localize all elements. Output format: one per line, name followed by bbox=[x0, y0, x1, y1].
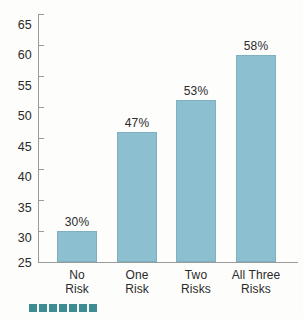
y-tick-label-50: 50 bbox=[6, 110, 32, 123]
y-tick-45 bbox=[39, 138, 44, 139]
decorative-square-strip bbox=[29, 304, 97, 312]
x-category-all-three-risks-line1: All Three bbox=[222, 268, 290, 282]
bar-value-no-risk: 30% bbox=[57, 216, 97, 228]
bar-value-all-three-risks: 58% bbox=[236, 40, 276, 52]
x-category-one-risk: One Risk bbox=[107, 268, 167, 296]
x-category-two-risks-line2: Risks bbox=[166, 282, 226, 296]
y-tick-50 bbox=[39, 107, 44, 108]
decorative-square bbox=[79, 304, 87, 312]
y-tick-60 bbox=[39, 45, 44, 46]
y-tick-label-55: 55 bbox=[6, 80, 32, 93]
y-tick-label-25: 25 bbox=[6, 257, 32, 270]
y-tick-label-40: 40 bbox=[6, 171, 32, 184]
x-category-two-risks-line1: Two bbox=[166, 268, 226, 282]
y-tick-55 bbox=[39, 76, 44, 77]
y-tick-label-60: 60 bbox=[6, 49, 32, 62]
x-category-one-risk-line2: Risk bbox=[107, 282, 167, 296]
decorative-square bbox=[39, 304, 47, 312]
bar-all-three-risks[interactable] bbox=[236, 55, 276, 262]
chart-page: 65 60 55 50 45 40 35 30 25 30% 47% 53% 5… bbox=[0, 0, 303, 319]
decorative-square bbox=[59, 304, 67, 312]
x-axis-line bbox=[38, 262, 298, 263]
decorative-square bbox=[69, 304, 77, 312]
bar-value-two-risks: 53% bbox=[176, 85, 216, 97]
y-tick-35 bbox=[39, 200, 44, 201]
x-category-no-risk-line1: No bbox=[47, 268, 107, 282]
y-tick-label-35: 35 bbox=[6, 202, 32, 215]
y-tick-40 bbox=[39, 169, 44, 170]
x-category-one-risk-line1: One bbox=[107, 268, 167, 282]
x-category-all-three-risks: All Three Risks bbox=[222, 268, 290, 296]
bar-value-one-risk: 47% bbox=[117, 117, 157, 129]
y-tick-30 bbox=[39, 231, 44, 232]
decorative-square bbox=[49, 304, 57, 312]
y-tick-label-30: 30 bbox=[6, 232, 32, 245]
x-category-two-risks: Two Risks bbox=[166, 268, 226, 296]
y-tick-25 bbox=[39, 262, 44, 263]
bar-two-risks[interactable] bbox=[176, 100, 216, 262]
bar-chart: 65 60 55 50 45 40 35 30 25 30% 47% 53% 5… bbox=[0, 0, 303, 319]
y-tick-65 bbox=[39, 14, 44, 15]
decorative-square bbox=[89, 304, 97, 312]
y-tick-label-45: 45 bbox=[6, 141, 32, 154]
decorative-square bbox=[29, 304, 37, 312]
x-category-all-three-risks-line2: Risks bbox=[222, 282, 290, 296]
x-category-no-risk: No Risk bbox=[47, 268, 107, 296]
y-tick-label-65: 65 bbox=[6, 19, 32, 32]
bar-no-risk[interactable] bbox=[57, 231, 97, 262]
x-category-no-risk-line2: Risk bbox=[47, 282, 107, 296]
bar-one-risk[interactable] bbox=[117, 132, 157, 262]
